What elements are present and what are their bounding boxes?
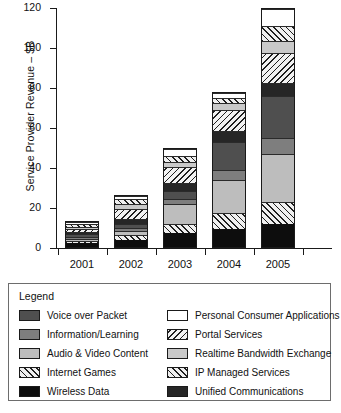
legend-item[interactable]: Personal Consumer Applications	[167, 306, 327, 324]
bar-segment[interactable]	[164, 167, 196, 184]
bar-segment[interactable]	[262, 224, 294, 247]
y-tick-40: 40	[50, 168, 56, 169]
y-tick-20: 20	[50, 208, 56, 209]
legend-item[interactable]: Internet Games	[19, 363, 169, 381]
legend-column-right: Personal Consumer ApplicationsPortal Ser…	[167, 306, 327, 401]
bar-segment[interactable]	[262, 138, 294, 154]
y-tick-label: 20	[29, 201, 41, 213]
bar-segment[interactable]	[164, 204, 196, 225]
legend-box: Legend Voice over PacketInformation/Lear…	[8, 283, 331, 401]
bar-segment[interactable]	[262, 53, 294, 84]
bar-segment[interactable]	[213, 103, 245, 110]
legend-swatch-icon	[19, 310, 40, 321]
legend-swatch-icon	[19, 386, 40, 397]
bar-segment[interactable]	[164, 224, 196, 233]
x-label-2001: 2001	[57, 258, 107, 270]
bar-segment[interactable]	[213, 131, 245, 143]
legend-item-label: Information/Learning	[47, 329, 139, 340]
x-tick	[205, 249, 206, 255]
bar-segment[interactable]	[164, 149, 196, 156]
bar-segment[interactable]	[213, 229, 245, 247]
bar-segment[interactable]	[262, 154, 294, 203]
y-axis-title: Service Provider Revenue – $B	[24, 1, 36, 231]
bar-2002[interactable]	[114, 195, 148, 248]
x-axis-line	[56, 248, 332, 249]
bar-segment[interactable]	[213, 170, 245, 180]
y-tick-100: 100	[50, 48, 56, 49]
legend-item-label: Audio & Video Content	[47, 348, 148, 359]
plot-area: 020406080100120 20012002200320042005	[56, 8, 332, 249]
legend-item[interactable]: Realtime Bandwidth Exchange	[167, 344, 327, 362]
legend-item[interactable]: Portal Services	[167, 325, 327, 343]
legend-item[interactable]: Audio & Video Content	[19, 344, 169, 362]
legend-item[interactable]: Information/Learning	[19, 325, 169, 343]
y-tick-label: 100	[23, 41, 41, 53]
x-label-2004: 2004	[204, 258, 254, 270]
bar-segment[interactable]	[213, 110, 245, 131]
legend-column-left: Voice over PacketInformation/LearningAud…	[19, 306, 169, 401]
x-tick	[156, 249, 157, 255]
bar-segment[interactable]	[262, 202, 294, 224]
bar-segment[interactable]	[164, 233, 196, 247]
bar-2001[interactable]	[65, 221, 99, 248]
legend-swatch-icon	[19, 329, 40, 340]
legend-swatch-icon	[167, 348, 188, 359]
legend-swatch-icon	[167, 329, 188, 340]
legend-item-label: Personal Consumer Applications	[195, 310, 340, 321]
y-tick-60: 60	[50, 128, 56, 129]
legend-item-label: Voice over Packet	[47, 310, 127, 321]
bar-segment[interactable]	[262, 96, 294, 138]
x-label-2005: 2005	[253, 258, 303, 270]
legend-swatch-icon	[19, 348, 40, 359]
legend-item[interactable]: Wireless Data	[19, 382, 169, 400]
legend-item[interactable]: IP Managed Services	[167, 363, 327, 381]
x-tick	[254, 249, 255, 255]
x-label-2002: 2002	[106, 258, 156, 270]
x-tick	[303, 249, 304, 255]
bar-2004[interactable]	[212, 92, 246, 248]
y-tick-label: 0	[35, 241, 41, 253]
legend-item[interactable]: Voice over Packet	[19, 306, 169, 324]
legend-item-label: Unified Communications	[195, 386, 303, 397]
bar-segment[interactable]	[213, 180, 245, 214]
bar-segment[interactable]	[164, 183, 196, 191]
bar-2005[interactable]	[261, 8, 295, 248]
legend-swatch-icon	[167, 386, 188, 397]
bar-segment[interactable]	[164, 191, 196, 199]
y-tick-label: 40	[29, 161, 41, 173]
legend-swatch-icon	[19, 367, 40, 378]
bar-segment[interactable]	[115, 209, 147, 220]
legend-swatch-icon	[167, 367, 188, 378]
bar-2003[interactable]	[163, 148, 197, 248]
legend-item-label: Internet Games	[47, 367, 116, 378]
y-axis-line	[56, 8, 57, 249]
y-tick-label: 60	[29, 121, 41, 133]
bar-segment[interactable]	[213, 142, 245, 170]
y-tick-120: 120	[50, 8, 56, 9]
x-tick	[58, 249, 59, 255]
legend-item-label: Wireless Data	[47, 386, 109, 397]
x-tick	[107, 249, 108, 255]
bar-segment[interactable]	[66, 243, 98, 247]
bar-segment[interactable]	[262, 9, 294, 26]
bar-segment[interactable]	[262, 41, 294, 53]
legend-item-label: Portal Services	[195, 329, 262, 340]
legend-item-label: IP Managed Services	[195, 367, 290, 378]
legend-swatch-icon	[167, 310, 188, 321]
bar-segment[interactable]	[115, 240, 147, 247]
legend-title: Legend	[19, 290, 54, 302]
chart-figure: Service Provider Revenue – $B 0204060801…	[0, 0, 341, 272]
y-tick-label: 120	[23, 1, 41, 13]
bar-segment[interactable]	[262, 83, 294, 96]
legend-item-label: Realtime Bandwidth Exchange	[195, 348, 331, 359]
legend-item[interactable]: Unified Communications	[167, 382, 327, 400]
y-tick-80: 80	[50, 88, 56, 89]
y-tick-0: 0	[50, 248, 56, 249]
bar-segment[interactable]	[262, 26, 294, 41]
bar-segment[interactable]	[213, 213, 245, 229]
y-tick-label: 80	[29, 81, 41, 93]
x-label-2003: 2003	[155, 258, 205, 270]
